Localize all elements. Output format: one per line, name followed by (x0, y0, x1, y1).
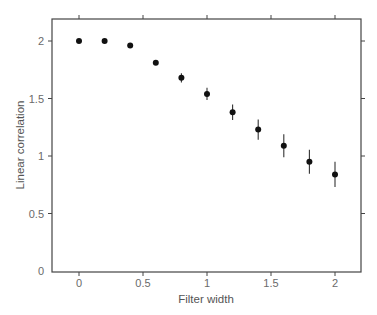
x-tick-label: 1 (204, 277, 210, 289)
data-point (204, 88, 210, 100)
y-axis-label: Linear correlation (14, 101, 26, 190)
marker (76, 38, 82, 44)
tick-labels: 00.511.5200.511.52 (29, 35, 338, 289)
data-points (76, 38, 338, 187)
marker (255, 127, 261, 133)
x-tick-label: 0.5 (135, 277, 150, 289)
marker (204, 91, 210, 97)
y-tick-label: 1.5 (29, 93, 44, 105)
y-tick-label: 0 (38, 265, 44, 277)
marker (153, 60, 159, 66)
marker (127, 43, 133, 49)
data-point (332, 162, 338, 187)
marker (102, 38, 108, 44)
data-point (76, 38, 82, 44)
x-tick-label: 0 (76, 277, 82, 289)
y-tick-label: 2 (38, 35, 44, 47)
axis-ticks (48, 15, 365, 276)
data-point (102, 38, 108, 44)
data-point (127, 43, 133, 49)
data-point (255, 119, 261, 139)
data-point (230, 104, 236, 120)
y-tick-label: 0.5 (29, 208, 44, 220)
marker (230, 109, 236, 115)
y-tick-label: 1 (38, 150, 44, 162)
x-tick-label: 1.5 (263, 277, 278, 289)
marker (306, 159, 312, 165)
chart-canvas: 00.511.5200.511.52 Filter width Linear c… (0, 0, 377, 315)
data-point (306, 150, 312, 174)
plot-frame (52, 19, 361, 272)
data-point (281, 134, 287, 157)
x-axis-label: Filter width (178, 293, 234, 305)
marker (281, 143, 287, 149)
data-point (153, 60, 159, 66)
marker (178, 75, 184, 81)
data-point (178, 73, 184, 82)
x-tick-label: 2 (332, 277, 338, 289)
marker (332, 171, 338, 177)
